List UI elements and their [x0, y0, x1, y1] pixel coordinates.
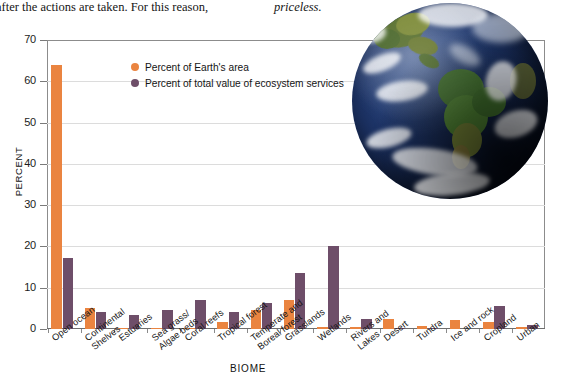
x-axis-tick	[512, 329, 513, 333]
x-axis-tick	[81, 329, 82, 333]
x-axis-tick	[346, 329, 347, 333]
legend-dot-icon-orange	[131, 63, 139, 71]
legend-label-ecosystem-value: Percent of total value of ecosystem serv…	[145, 78, 344, 89]
legend-item-ecosystem-value: Percent of total value of ecosystem serv…	[131, 76, 344, 90]
legend-item-earth-area: Percent of Earth's area	[131, 60, 344, 74]
body-text-column-b: priceless.	[274, 0, 322, 15]
x-axis-tick	[313, 329, 314, 333]
x-axis-tick	[214, 329, 215, 333]
x-axis-tick	[446, 329, 447, 333]
legend-label-earth-area: Percent of Earth's area	[145, 62, 249, 73]
bar	[51, 65, 62, 329]
x-axis-tick	[48, 329, 49, 333]
x-axis-tick	[413, 329, 414, 333]
x-axis-tick	[147, 329, 148, 333]
x-axis-tick	[479, 329, 480, 333]
body-text-column-a: after the actions are taken. For this re…	[0, 0, 208, 15]
chart-legend: Percent of Earth's area Percent of total…	[131, 60, 344, 92]
legend-dot-icon-purple	[131, 79, 139, 87]
bar	[328, 246, 339, 329]
x-axis-tick	[247, 329, 248, 333]
earth-photo	[352, 3, 548, 199]
earth-globe-icon	[352, 3, 548, 199]
